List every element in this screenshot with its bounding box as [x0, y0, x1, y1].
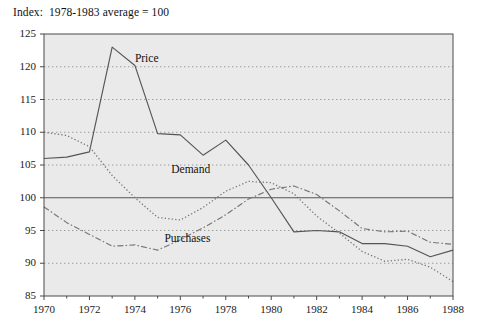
y-tick-label: 95 [12, 224, 36, 236]
series-annotation-price: Price [135, 52, 159, 64]
x-tick-label: 1978 [206, 303, 246, 315]
x-tick-label: 1986 [388, 303, 428, 315]
y-tick-label: 90 [12, 256, 36, 268]
x-tick-label: 1984 [342, 303, 382, 315]
x-tick-label: 1976 [160, 303, 200, 315]
plot-canvas [0, 0, 483, 327]
x-tick-label: 1970 [24, 303, 64, 315]
y-tick-label: 125 [12, 27, 36, 39]
series-annotation-purchases: Purchases [164, 232, 210, 244]
y-tick-label: 115 [12, 93, 36, 105]
x-tick-label: 1974 [115, 303, 155, 315]
x-tick-label: 1980 [251, 303, 291, 315]
y-tick-label: 100 [12, 191, 36, 203]
series-annotation-demand: Demand [171, 163, 210, 175]
y-tick-label: 105 [12, 158, 36, 170]
chart-figure: Index: 1978-1983 average = 100 859095100… [0, 0, 483, 327]
y-tick-label: 85 [12, 289, 36, 301]
y-tick-label: 120 [12, 60, 36, 72]
x-tick-label: 1988 [433, 303, 473, 315]
x-tick-label: 1982 [297, 303, 337, 315]
y-tick-label: 110 [12, 125, 36, 137]
x-tick-label: 1972 [69, 303, 109, 315]
